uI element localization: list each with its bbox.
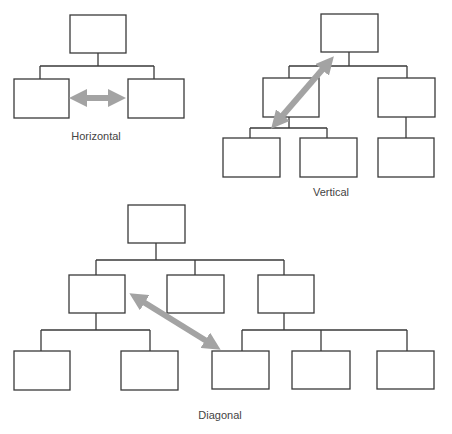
label-vertical: Vertical: [313, 186, 349, 198]
connector-lines-left: [41, 313, 150, 351]
org-box-bottom-2: [121, 351, 178, 390]
connector-lines: [96, 243, 284, 275]
vertical-diagram: [223, 14, 435, 177]
org-box-bottom-4: [292, 351, 350, 389]
org-box-bottom-2: [300, 138, 357, 177]
org-box-bottom-3: [212, 351, 269, 389]
connector-lines: [289, 52, 407, 78]
connector-lines-lower: [250, 117, 406, 138]
label-horizontal: Horizontal: [71, 130, 121, 142]
org-box-bottom-1: [14, 351, 70, 390]
connector-lines: [40, 53, 154, 79]
org-box-mid-right: [378, 78, 435, 117]
org-box-mid-1: [69, 275, 125, 313]
connector-lines-right: [242, 313, 407, 351]
org-box-child-left: [14, 79, 69, 118]
org-box-root: [70, 15, 126, 53]
org-box-root: [128, 205, 185, 243]
org-box-bottom-1: [223, 138, 280, 177]
label-diagonal: Diagonal: [198, 409, 241, 421]
org-box-mid-3: [258, 275, 314, 313]
diagonal-diagram: [14, 205, 434, 390]
org-chart-diagrams: [0, 0, 452, 434]
org-box-mid-2: [167, 275, 224, 313]
horizontal-diagram: [14, 15, 184, 118]
org-box-bottom-5: [377, 351, 434, 389]
org-box-child-right: [128, 79, 184, 118]
org-box-bottom-3: [378, 138, 434, 177]
org-box-root: [321, 14, 378, 52]
